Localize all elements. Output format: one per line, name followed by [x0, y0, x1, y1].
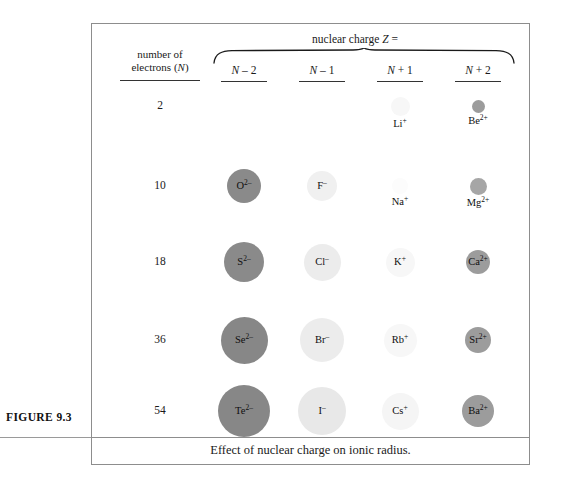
ion-label: O2– — [236, 181, 251, 192]
column-header-underline-1 — [221, 81, 267, 82]
ion-label: F– — [317, 181, 327, 192]
electrons-header-line2: electrons (N) — [118, 61, 202, 74]
ion-circle: F– — [307, 171, 337, 201]
caption-divider — [91, 437, 530, 438]
ion-circle: Rb+ — [384, 324, 417, 357]
ion-label: Rb+ — [392, 335, 409, 346]
ion-circle: I– — [298, 387, 346, 435]
ion-circle: Ca2+ — [466, 250, 490, 274]
ion-circle: Na+ — [392, 178, 408, 194]
ion-circle: Cs+ — [382, 393, 419, 430]
ion-circle: S2– — [224, 242, 264, 282]
figure-caption: Effect of nuclear charge on ionic radius… — [91, 443, 530, 458]
ion-circle: Te2– — [218, 385, 270, 437]
electron-count-value: 10 — [118, 179, 202, 191]
ion-circle: Se2– — [221, 317, 268, 364]
margin-horizontal-rule — [0, 437, 91, 438]
ion-label: Be2+ — [468, 116, 488, 127]
ion-circle: O2– — [227, 169, 261, 203]
ion-label: Se2– — [235, 335, 253, 346]
nuclear-charge-title: nuclear charge Z = — [255, 33, 455, 45]
electron-count-value: 18 — [118, 255, 202, 267]
ion-label: Ca2+ — [468, 257, 488, 268]
electrons-header-underline — [120, 80, 200, 81]
ion-label: Cl– — [315, 257, 329, 268]
ion-circle: Cl– — [304, 244, 341, 281]
ion-circle: Sr2+ — [465, 327, 491, 353]
ion-cell: K+ — [355, 217, 445, 307]
ion-cell: Ca2+ — [433, 217, 523, 307]
electron-count-value: 2 — [118, 99, 202, 111]
ion-label: Ba2+ — [468, 406, 488, 417]
ion-cell: Li+ — [355, 61, 445, 151]
ion-circle: Mg2+ — [470, 178, 487, 195]
ion-circle: Br– — [300, 318, 344, 362]
ion-label: Te2– — [235, 406, 253, 417]
figure-number-label: FIGURE 9.3 — [6, 411, 72, 423]
ion-circle: Ba2+ — [462, 395, 494, 427]
ion-label: I– — [318, 406, 325, 417]
ion-circle: Li+ — [391, 97, 410, 116]
ion-label: K+ — [394, 257, 406, 268]
ion-label: S2– — [237, 257, 250, 268]
ion-label: Cs+ — [392, 406, 407, 417]
electrons-header-line1: number of — [118, 48, 202, 61]
electron-count-value: 54 — [118, 404, 202, 416]
ion-label: Na+ — [392, 197, 408, 208]
column-header-2: N – 1 — [285, 64, 359, 76]
ion-cell: Cl– — [277, 217, 367, 307]
ion-cell: S2– — [199, 217, 289, 307]
ion-label: Sr2+ — [469, 335, 486, 346]
column-header-1: N – 2 — [207, 64, 281, 76]
ion-cell: Be2+ — [433, 61, 523, 151]
ion-circle: Be2+ — [472, 100, 485, 113]
electrons-column-header: number of electrons (N) — [118, 48, 202, 74]
nuclear-charge-title-text: nuclear charge Z = — [312, 33, 398, 45]
ion-circle: K+ — [386, 248, 415, 277]
ion-label: Br– — [315, 335, 329, 346]
ion-label: Mg2+ — [467, 198, 490, 209]
electron-count-value: 36 — [118, 333, 202, 345]
column-header-underline-2 — [299, 81, 345, 82]
ion-label: Li+ — [393, 119, 407, 130]
